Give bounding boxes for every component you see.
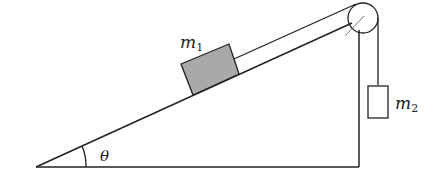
block-m1-label: m1	[180, 32, 203, 54]
block-m2	[368, 86, 388, 118]
incline-pulley-diagram: θ m1 m2	[0, 0, 447, 180]
angle-arc	[82, 146, 86, 167]
block-m2-label: m2	[395, 93, 418, 115]
pulley-icon	[348, 3, 378, 33]
string-incline	[234, 4, 356, 59]
angle-label: θ	[100, 147, 109, 165]
